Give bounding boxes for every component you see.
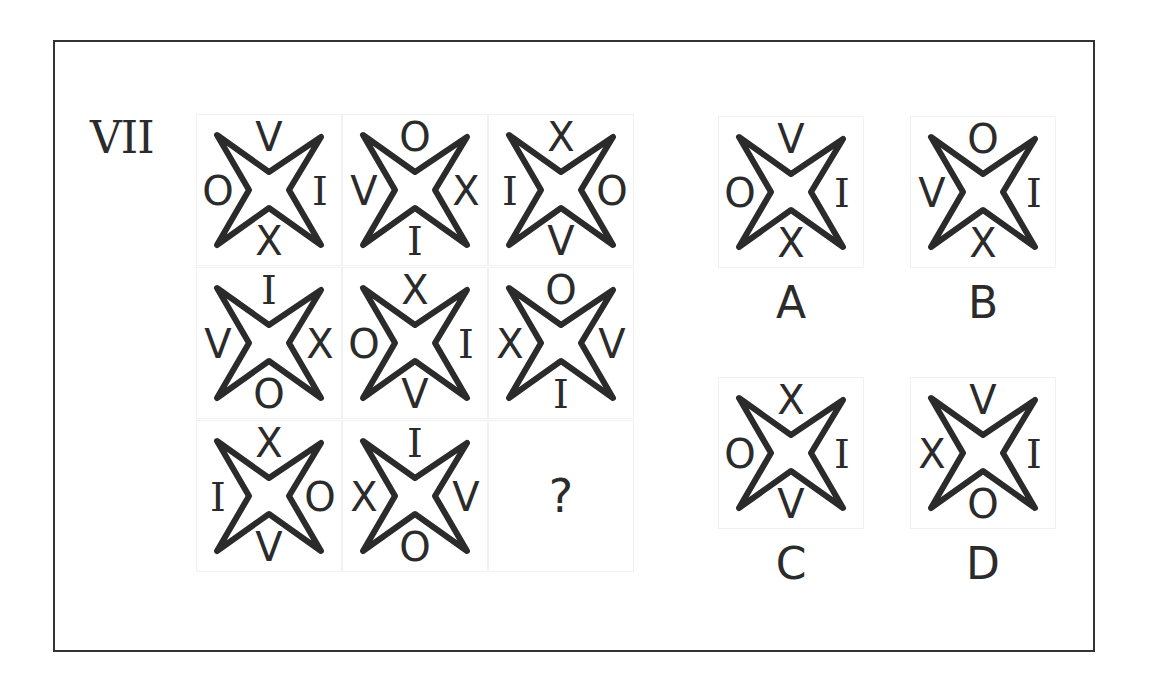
right-letter: O bbox=[592, 171, 632, 211]
top-letter: X bbox=[395, 270, 435, 310]
matrix-cell: V O I X bbox=[197, 115, 341, 265]
question-mark: ? bbox=[489, 421, 633, 571]
left-letter: X bbox=[344, 477, 384, 517]
top-letter: X bbox=[771, 380, 811, 420]
left-letter: I bbox=[198, 477, 238, 517]
missing-cell: ? bbox=[489, 421, 633, 571]
right-letter: V bbox=[592, 324, 632, 364]
top-letter: X bbox=[249, 423, 289, 463]
right-letter: X bbox=[300, 324, 340, 364]
left-letter: V bbox=[198, 324, 238, 364]
bottom-letter: I bbox=[395, 221, 435, 261]
top-letter: I bbox=[395, 423, 435, 463]
right-letter: I bbox=[822, 434, 862, 474]
option-label[interactable]: C bbox=[719, 538, 863, 589]
option-d[interactable]: V X I O bbox=[911, 378, 1055, 528]
matrix-cell: X I O V bbox=[489, 115, 633, 265]
right-letter: V bbox=[446, 477, 486, 517]
option-a[interactable]: V O I X bbox=[719, 117, 863, 267]
right-letter: X bbox=[446, 171, 486, 211]
top-letter: X bbox=[541, 117, 581, 157]
left-letter: I bbox=[490, 171, 530, 211]
left-letter: O bbox=[344, 324, 384, 364]
matrix-cell: O V X I bbox=[343, 115, 487, 265]
top-letter: O bbox=[541, 270, 581, 310]
top-letter: O bbox=[963, 119, 1003, 159]
bottom-letter: O bbox=[963, 484, 1003, 524]
option-label[interactable]: D bbox=[911, 538, 1055, 589]
matrix-cell: I X V O bbox=[343, 421, 487, 571]
right-letter: O bbox=[300, 477, 340, 517]
right-letter: I bbox=[446, 324, 486, 364]
right-letter: I bbox=[1014, 173, 1054, 213]
matrix-cell: I V X O bbox=[197, 268, 341, 418]
bottom-letter: V bbox=[771, 484, 811, 524]
top-letter: I bbox=[249, 270, 289, 310]
right-letter: I bbox=[822, 173, 862, 213]
bottom-letter: X bbox=[771, 223, 811, 263]
bottom-letter: V bbox=[395, 374, 435, 414]
bottom-letter: O bbox=[249, 374, 289, 414]
left-letter: X bbox=[912, 434, 952, 474]
matrix-cell: X O I V bbox=[343, 268, 487, 418]
bottom-letter: V bbox=[249, 527, 289, 567]
left-letter: O bbox=[720, 434, 760, 474]
puzzle-number: VII bbox=[90, 112, 154, 163]
matrix-cell: O X V I bbox=[489, 268, 633, 418]
bottom-letter: V bbox=[541, 221, 581, 261]
bottom-letter: I bbox=[541, 374, 581, 414]
top-letter: V bbox=[963, 380, 1003, 420]
left-letter: V bbox=[912, 173, 952, 213]
top-letter: V bbox=[771, 119, 811, 159]
right-letter: I bbox=[1014, 434, 1054, 474]
top-letter: O bbox=[395, 117, 435, 157]
bottom-letter: O bbox=[395, 527, 435, 567]
option-b[interactable]: O V I X bbox=[911, 117, 1055, 267]
left-letter: O bbox=[198, 171, 238, 211]
left-letter: X bbox=[490, 324, 530, 364]
bottom-letter: X bbox=[249, 221, 289, 261]
option-c[interactable]: X O I V bbox=[719, 378, 863, 528]
left-letter: O bbox=[720, 173, 760, 213]
option-label[interactable]: A bbox=[719, 277, 863, 328]
left-letter: V bbox=[344, 171, 384, 211]
option-label[interactable]: B bbox=[911, 277, 1055, 328]
bottom-letter: X bbox=[963, 223, 1003, 263]
top-letter: V bbox=[249, 117, 289, 157]
matrix-cell: X I O V bbox=[197, 421, 341, 571]
right-letter: I bbox=[300, 171, 340, 211]
